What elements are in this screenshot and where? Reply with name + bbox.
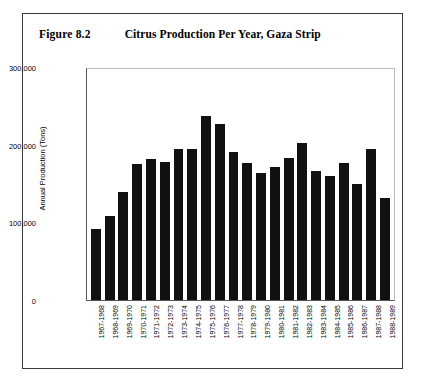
x-label-slot: 1972-1973 [157,303,171,369]
x-label-slot: 1974-1975 [185,303,199,369]
bar [201,116,211,300]
bar [284,158,294,300]
bar-slot [185,69,199,300]
bar [366,149,376,300]
x-label-slot: 1969-1970 [116,303,130,369]
bar-slot [103,69,117,300]
x-label-slot: 1975-1976 [199,303,213,369]
bar-series [87,69,394,300]
x-label-slot: 1971-1972 [143,303,157,369]
bar [311,171,321,300]
y-axis-tick-label: 200,000 [9,141,36,150]
bar-slot [323,69,337,300]
x-label-slot: 1977-1978 [227,303,241,369]
bar [352,184,362,301]
bar [229,152,239,300]
bar [91,229,101,300]
x-label-slot: 1988-1989 [379,303,393,369]
x-label-slot: 1970-1971 [130,303,144,369]
x-label-slot: 1984-1985 [324,303,338,369]
bar [132,164,142,300]
x-label-slot: 1982-1983 [296,303,310,369]
bar-chart: Annual Production (Tons) 0100,000200,000… [23,14,404,370]
bar-slot [282,69,296,300]
x-label-slot: 1967-1968 [88,303,102,369]
x-label-slot: 1983-1984 [310,303,324,369]
bar [339,163,349,300]
x-axis-tick-label: 1988-1989 [389,305,396,338]
bar-slot [309,69,323,300]
bar [160,162,170,300]
figure-frame: Figure 8.2 Citrus Production Per Year, G… [22,13,403,369]
x-label-slot: 1978-1979 [240,303,254,369]
x-label-slot: 1979-1980 [254,303,268,369]
bar-slot [337,69,351,300]
y-axis-tick-label: 0 [32,297,36,306]
bar [325,176,335,300]
bar-slot [254,69,268,300]
bar-slot [213,69,227,300]
x-label-slot: 1968-1969 [102,303,116,369]
bar [297,143,307,300]
bar [256,173,266,300]
plot-area [86,68,395,301]
bar-slot [227,69,241,300]
y-axis-tick-label: 100,000 [9,219,36,228]
bar [187,149,197,300]
y-axis-title: Annual Production (Tons) [38,94,47,244]
x-label-slot: 1980-1981 [268,303,282,369]
bar [174,149,184,300]
bar-slot [199,69,213,300]
bar [242,163,252,300]
bar [105,216,115,300]
x-label-slot: 1985-1986 [337,303,351,369]
bar-slot [268,69,282,300]
bar-slot [378,69,392,300]
x-label-slot: 1986-1987 [351,303,365,369]
bar-slot [351,69,365,300]
bar-slot [144,69,158,300]
bar [146,159,156,300]
bar [270,167,280,300]
y-axis-tick-label: 300,000 [9,64,36,73]
bar-slot [117,69,131,300]
bar-slot [295,69,309,300]
bar [380,198,390,300]
bar-slot [158,69,172,300]
x-label-slot: 1973-1974 [171,303,185,369]
x-axis-tick-labels: 1967-19681968-19691969-19701970-19711971… [86,303,395,369]
bar-slot [364,69,378,300]
bar-slot [172,69,186,300]
bar-slot [89,69,103,300]
bar [118,192,128,300]
bar-slot [240,69,254,300]
bar [215,124,225,300]
x-label-slot: 1976-1977 [213,303,227,369]
x-label-slot: 1981-1982 [282,303,296,369]
x-label-slot: 1987-1988 [365,303,379,369]
bar-slot [130,69,144,300]
